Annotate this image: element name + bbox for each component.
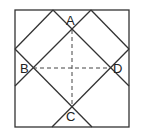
label-a: A	[66, 13, 75, 28]
label-c: C	[66, 109, 75, 124]
line-d-upper-extension	[91, 10, 129, 49]
dashed-diagonals	[33, 30, 110, 107]
line-a-b-upper-extension	[15, 10, 53, 49]
geometry-diagram: A B D C	[0, 0, 141, 138]
label-b: B	[20, 61, 29, 76]
label-d: D	[113, 61, 122, 76]
